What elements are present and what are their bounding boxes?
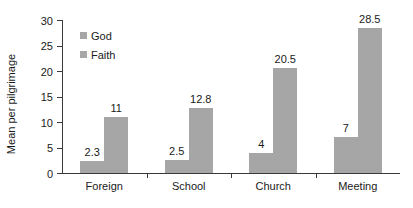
y-tick: 5 (57, 148, 62, 149)
bar (273, 68, 297, 173)
legend-swatch-icon (80, 51, 87, 58)
y-tick: 20 (57, 71, 62, 72)
bar-value-label: 20.5 (275, 53, 296, 65)
bar-value-label: 2.3 (85, 146, 100, 158)
y-tick-label: 15 (41, 91, 53, 103)
y-tick: 15 (57, 97, 62, 98)
y-axis-line (62, 20, 63, 173)
y-tick-label: 20 (41, 66, 53, 78)
bar-value-label: 7 (343, 122, 349, 134)
x-tick (147, 173, 148, 178)
legend-item-god: God (80, 26, 115, 45)
bar-value-label: 2.5 (169, 145, 184, 157)
bar (358, 28, 382, 173)
bar (189, 108, 213, 173)
x-tick (316, 173, 317, 178)
y-tick-label: 25 (41, 40, 53, 52)
x-category-label: Meeting (338, 180, 377, 192)
y-tick: 0 (57, 173, 62, 174)
y-tick-label: 5 (47, 142, 53, 154)
x-category-label: Church (256, 180, 291, 192)
bar (104, 117, 128, 173)
bar (80, 161, 104, 173)
y-tick: 10 (57, 122, 62, 123)
bar-value-label: 12.8 (190, 93, 211, 105)
y-tick: 25 (57, 46, 62, 47)
bar (334, 137, 358, 173)
x-tick (231, 173, 232, 178)
bar-chart: Mean per pilgrimage 051015202530 2.3112.… (0, 0, 413, 208)
legend-label-faith: Faith (91, 49, 115, 61)
legend-item-faith: Faith (80, 45, 115, 64)
bar (249, 153, 273, 173)
bar-value-label: 4 (258, 138, 264, 150)
y-tick: 30 (57, 20, 62, 21)
legend-label-god: God (91, 30, 112, 42)
legend: God Faith (80, 26, 115, 64)
y-tick-label: 10 (41, 117, 53, 129)
y-tick-label: 30 (41, 15, 53, 27)
bar (165, 160, 189, 173)
y-axis-title: Mean per pilgrimage (0, 0, 22, 208)
legend-swatch-icon (80, 32, 87, 39)
bar-value-label: 28.5 (359, 13, 380, 25)
x-category-label: School (172, 180, 206, 192)
x-category-label: Foreign (86, 180, 123, 192)
y-tick-label: 0 (47, 168, 53, 180)
bar-value-label: 11 (111, 102, 122, 114)
